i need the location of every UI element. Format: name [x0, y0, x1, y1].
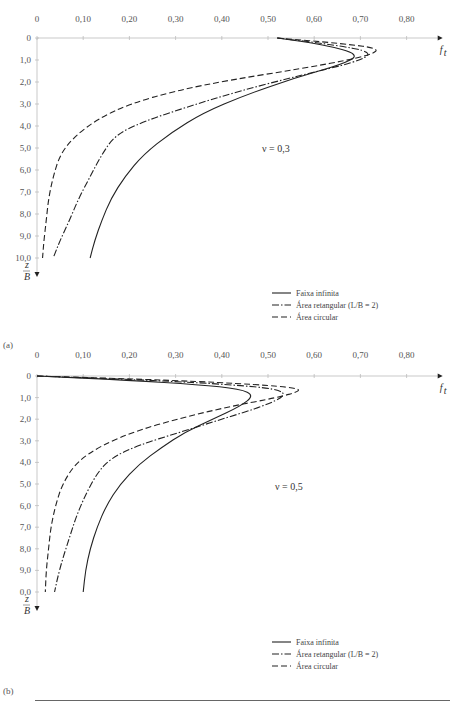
x-tick-label: 0,80 — [399, 14, 415, 24]
x-tick-label: 0,80 — [399, 350, 415, 360]
y-tick-label: 0 — [27, 371, 32, 381]
x-tick-label: 0,10 — [75, 14, 91, 24]
svg-text:B: B — [24, 271, 30, 282]
svg-text:t: t — [444, 385, 447, 396]
chart-canvas: 00,100,200,300,400,500,600,700,8001,02,0… — [0, 0, 450, 708]
x-tick-label: 0,40 — [214, 14, 230, 24]
y-tick-label: 9,0 — [20, 231, 32, 241]
y-tick-label: 8,0 — [20, 544, 32, 554]
legend: Faixa infinitaÁrea retangular (L/B = 2)Á… — [272, 289, 379, 322]
y-tick-label: 2,0 — [20, 414, 32, 424]
y-axis-arrow-icon — [35, 272, 40, 277]
y-axis-label: z — [24, 259, 29, 270]
series-line — [90, 38, 354, 258]
x-tick-label: 0 — [35, 350, 40, 360]
x-tick-label: 0,70 — [353, 14, 369, 24]
x-tick-label: 0,60 — [306, 14, 322, 24]
poisson-ratio-annotation: ν = 0,5 — [275, 481, 303, 492]
x-tick-label: 0,30 — [168, 14, 184, 24]
y-tick-label: 5,0 — [20, 143, 32, 153]
series-line — [37, 376, 283, 592]
y-tick-label: 6,0 — [20, 501, 32, 511]
y-tick-label: 7,0 — [20, 522, 32, 532]
y-tick-label: 8,0 — [20, 209, 32, 219]
legend-label: Área retangular (L/B = 2) — [296, 300, 379, 310]
x-tick-label: 0 — [35, 14, 40, 24]
y-tick-label: 2,0 — [20, 77, 32, 87]
y-axis-arrow-icon — [35, 606, 40, 611]
x-tick-label: 0,20 — [122, 14, 138, 24]
y-tick-label: 3,0 — [20, 99, 32, 109]
x-tick-label: 0,70 — [353, 350, 369, 360]
chart-panel-b: 00,100,200,300,400,500,600,700,8001,02,0… — [3, 350, 447, 696]
legend-label: Faixa infinita — [296, 638, 339, 647]
series-line — [37, 376, 251, 592]
x-axis-arrow-icon — [438, 374, 443, 379]
x-tick-label: 0,10 — [75, 350, 91, 360]
panel-label: (a) — [3, 340, 13, 350]
legend-label: Área retangular (L/B = 2) — [296, 649, 379, 659]
y-tick-label: 1,0 — [20, 393, 32, 403]
y-axis-label: z — [24, 593, 29, 604]
legend-label: Área circular — [296, 312, 338, 322]
y-tick-label: 9,0 — [20, 565, 32, 575]
x-tick-label: 0,50 — [260, 14, 276, 24]
bottom-divider — [35, 700, 450, 701]
x-tick-label: 0,60 — [306, 350, 322, 360]
x-tick-label: 0,40 — [214, 350, 230, 360]
y-tick-label: 3,0 — [20, 436, 32, 446]
y-tick-label: 10,0 — [15, 253, 31, 263]
x-axis-arrow-icon — [438, 36, 443, 41]
svg-text:B: B — [24, 605, 30, 616]
y-tick-label: 5,0 — [20, 479, 32, 489]
x-tick-label: 0,30 — [168, 350, 184, 360]
panel-label: (b) — [3, 686, 14, 696]
svg-text:t: t — [444, 47, 447, 58]
y-tick-label: 1,0 — [20, 55, 32, 65]
series-line — [37, 376, 298, 592]
y-tick-label: 0 — [27, 33, 32, 43]
y-tick-label: 7,0 — [20, 187, 32, 197]
series-line — [43, 38, 377, 258]
x-tick-label: 0,50 — [260, 350, 276, 360]
x-tick-label: 0,20 — [122, 350, 138, 360]
legend: Faixa infinitaÁrea retangular (L/B = 2)Á… — [272, 638, 379, 671]
chart-panel-a: 00,100,200,300,400,500,600,700,8001,02,0… — [3, 14, 447, 350]
y-tick-label: 6,0 — [20, 165, 32, 175]
y-tick-label: 4,0 — [20, 121, 32, 131]
y-tick-label: 4,0 — [20, 457, 32, 467]
legend-label: Faixa infinita — [296, 289, 339, 298]
legend-label: Área circular — [296, 661, 338, 671]
poisson-ratio-annotation: ν = 0,3 — [262, 143, 290, 154]
